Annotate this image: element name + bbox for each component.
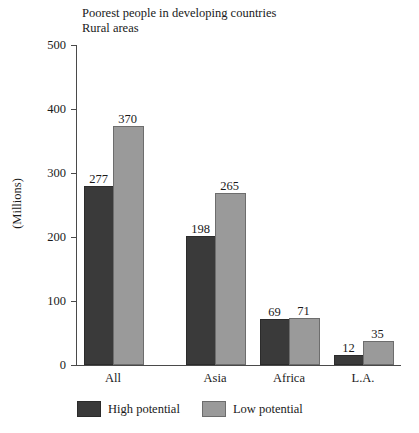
y-axis-tick-label: 300: [47, 167, 66, 179]
y-axis-tick: [71, 365, 77, 366]
category-label: All: [66, 371, 160, 385]
bar-chart: Poorest people in developing countries R…: [0, 0, 419, 433]
y-axis-tick-label: 500: [47, 39, 66, 51]
bar-value-label: 277: [78, 173, 119, 186]
bar-high-potential: [186, 236, 217, 365]
bar-low-potential: [113, 126, 144, 365]
bar-high-potential: [260, 319, 291, 365]
bar-high-potential: [334, 355, 365, 365]
x-axis-line: [76, 365, 401, 366]
bar-low-potential: [215, 193, 246, 365]
bar-low-potential: [289, 318, 320, 365]
legend-label-low-potential: Low potential: [233, 403, 303, 416]
chart-subtitle: Rural areas: [82, 21, 139, 36]
bar-value-label: 370: [107, 113, 148, 126]
bar-value-label: 265: [209, 180, 250, 193]
y-axis-title: (Millions): [11, 164, 24, 244]
y-axis-tick-label: 200: [47, 231, 66, 243]
plot-area: [76, 45, 401, 365]
chart-title: Poorest people in developing countries: [82, 6, 276, 21]
legend-label-high-potential: High potential: [108, 403, 180, 416]
bar-high-potential: [84, 186, 115, 365]
legend-item-low-potential: Low potential: [202, 401, 303, 417]
bar-value-label: 35: [357, 328, 398, 341]
y-axis-tick-label: 400: [47, 103, 66, 115]
legend-swatch-high-potential: [77, 401, 101, 417]
y-axis-tick-label: 0: [60, 359, 66, 371]
bar-value-label: 12: [328, 342, 369, 355]
y-axis-tick-label: 100: [47, 295, 66, 307]
bar-value-label: 198: [180, 223, 221, 236]
bar-value-label: 71: [283, 305, 324, 318]
category-label: L.A.: [316, 371, 410, 385]
chart-legend: High potential Low potential: [77, 401, 303, 417]
legend-swatch-low-potential: [202, 401, 226, 417]
legend-item-high-potential: High potential: [77, 401, 180, 417]
